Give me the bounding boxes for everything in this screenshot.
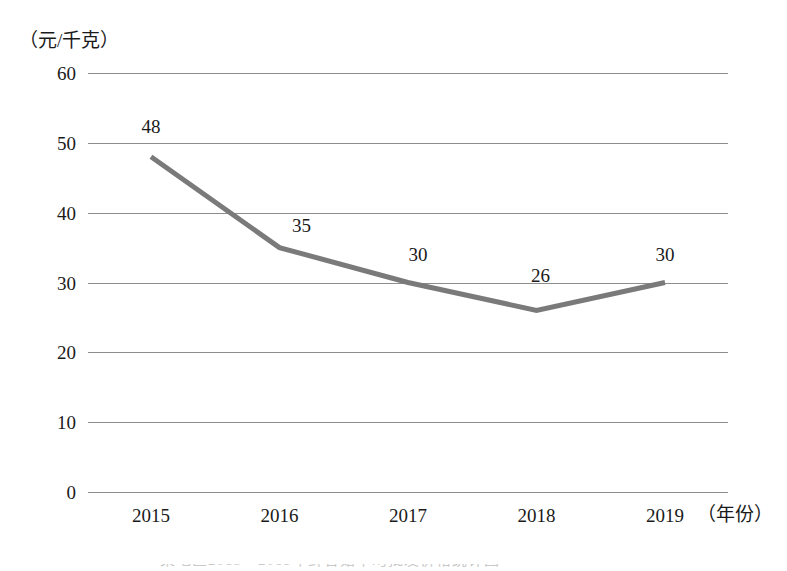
y-axis-unit-label: （元/千克） xyxy=(19,31,119,50)
y-tick-label-30: 30 xyxy=(16,273,76,292)
y-tick-label-40: 40 xyxy=(16,203,76,222)
x-tick-label-2018: 2018 xyxy=(492,506,582,525)
y-tick-label-20: 20 xyxy=(16,343,76,362)
y-tick-label-60: 60 xyxy=(16,64,76,83)
y-axis-tick-labels: 6050403020100 xyxy=(8,73,76,492)
x-axis-tick-labels: 20152016201720182019 xyxy=(88,506,728,534)
x-axis-unit-label: （年份） xyxy=(697,505,773,524)
figure-caption-strip: 某地区2015—2019年鲜香菇平均批发价格统计图 xyxy=(0,564,787,571)
gridline-0 xyxy=(88,492,728,493)
data-label-2015: 48 xyxy=(121,117,181,136)
figure-caption: 某地区2015—2019年鲜香菇平均批发价格统计图 xyxy=(160,564,500,568)
series-line-chart xyxy=(88,73,728,492)
y-tick-label-10: 10 xyxy=(16,413,76,432)
x-tick-label-2015: 2015 xyxy=(106,506,196,525)
series-polyline xyxy=(151,157,665,311)
x-tick-label-2016: 2016 xyxy=(235,506,325,525)
y-tick-label-50: 50 xyxy=(16,133,76,152)
data-label-2016: 35 xyxy=(272,216,332,235)
y-tick-label-0: 0 xyxy=(16,483,76,502)
plot-area: 4835302630 xyxy=(88,73,728,492)
data-label-2017: 30 xyxy=(388,245,448,264)
data-label-2018: 26 xyxy=(511,266,571,285)
x-tick-label-2017: 2017 xyxy=(363,506,453,525)
data-label-2019: 30 xyxy=(635,245,695,264)
line-chart: （元/千克） 6050403020100 4835302630 20152016… xyxy=(0,0,787,571)
